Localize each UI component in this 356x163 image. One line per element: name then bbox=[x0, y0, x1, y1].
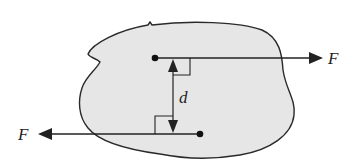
arrowhead-left-icon bbox=[38, 128, 52, 140]
force-label-top: F bbox=[327, 49, 339, 68]
couple-diagram: F F d bbox=[0, 0, 356, 163]
arrowhead-right-icon bbox=[309, 52, 323, 64]
distance-label: d bbox=[179, 88, 188, 107]
force-label-bottom: F bbox=[17, 125, 29, 144]
application-point-top bbox=[152, 55, 159, 62]
application-point-bottom bbox=[197, 131, 204, 138]
